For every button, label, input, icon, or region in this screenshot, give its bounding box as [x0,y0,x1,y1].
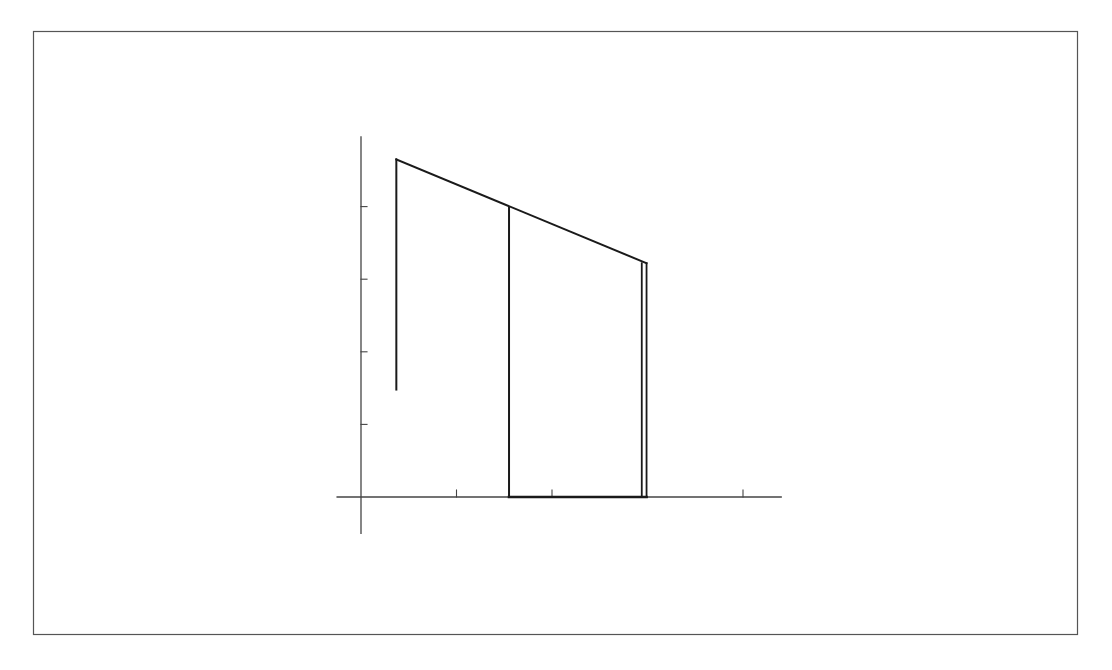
diagram-shapes [396,159,646,497]
top-sloped-edge [396,159,646,263]
figure-frame [34,32,1078,635]
diagram-canvas [0,0,1112,670]
axes [337,137,781,533]
